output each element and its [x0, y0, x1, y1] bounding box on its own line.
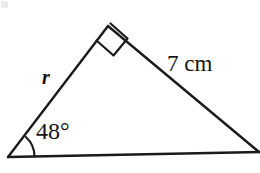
triangle-svg	[0, 0, 260, 173]
triangle-side-base	[8, 152, 260, 157]
label-side-r: r	[42, 67, 50, 87]
angle-arc-48	[26, 137, 35, 157]
triangle-side-right	[108, 26, 259, 152]
label-angle-48: 48°	[36, 119, 70, 143]
label-side-7cm: 7 cm	[167, 52, 212, 75]
triangle-figure: r 7 cm 48°	[0, 0, 260, 173]
